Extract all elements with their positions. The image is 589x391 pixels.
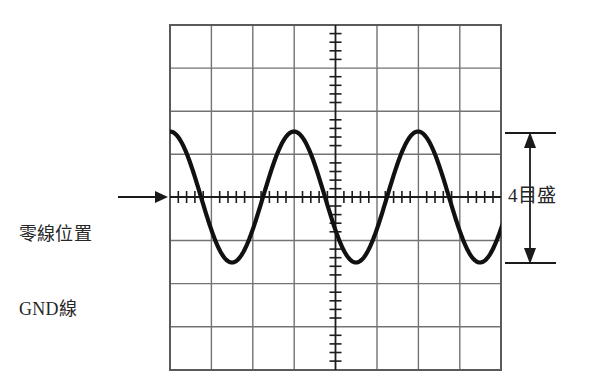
amplitude-divisions-label: 4目盛: [508, 185, 556, 207]
gnd-label-line2: GND線: [19, 297, 92, 322]
figure-page: 零線位置 GND線 4目盛: [0, 0, 589, 391]
gnd-label-line1: 零線位置: [19, 222, 92, 247]
amplitude-arrow-head-up: [524, 132, 536, 148]
amplitude-arrow-head-down: [524, 248, 536, 264]
gnd-line-label: 零線位置 GND線: [19, 172, 92, 372]
gnd-pointer-arrow: [118, 191, 168, 203]
